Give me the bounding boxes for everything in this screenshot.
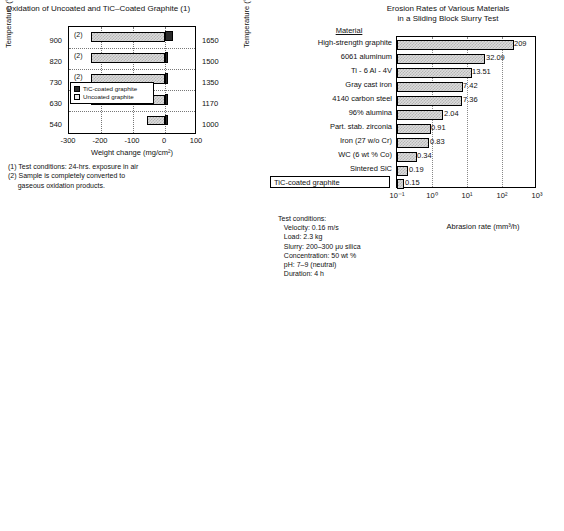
sliding-title-line1: Erosion Rates of Various Materials <box>338 4 558 14</box>
oxidation-legend: TiC-coated graphite Uncoated graphite <box>70 82 154 104</box>
sliding-value-10: 0.15 <box>405 177 420 188</box>
oxidation-ytick-c-3: 630 <box>36 99 62 108</box>
oxidation-ylabel-left: Temperature (°C) <box>4 0 13 48</box>
legend-swatch-light-icon <box>74 94 80 100</box>
sliding-bar-6 <box>397 124 431 134</box>
chart-oxidation: Oxidation of Uncoated and TiC–Coated Gra… <box>6 4 268 214</box>
sliding-xtick-3: 10² <box>491 191 513 200</box>
sliding-cond-2: Load: 2.3 kg <box>278 232 361 241</box>
sliding-label-9: Sintered SiC <box>268 163 392 174</box>
oxidation-bar-uncoated-1 <box>91 53 165 63</box>
sliding-label-8: WC (6 wt % Co) <box>268 149 392 160</box>
oxidation-footnote-3: gaseous oxidation products. <box>8 181 258 190</box>
oxidation-ytick-f-4: 1000 <box>202 120 232 129</box>
legend-label-tic: TiC-coated graphite <box>83 85 137 93</box>
sliding-cond-4: Concentration: 50 wt % <box>278 251 361 260</box>
legend-label-uncoated: Uncoated graphite <box>83 93 134 101</box>
legend-swatch-dark-icon <box>74 86 80 92</box>
sliding-bar-1 <box>397 54 485 64</box>
sliding-label-1: 6061 aluminum <box>268 51 392 62</box>
sliding-xlabel: Abrasion rate (mm³/h) <box>408 222 558 231</box>
oxidation-marker-0: (2) <box>74 31 83 38</box>
chart-sliding-block: Erosion Rates of Various Materials in a … <box>268 2 560 277</box>
oxidation-xlabel: Weight change (mg/cm²) <box>68 148 196 157</box>
sliding-bar-8 <box>397 152 417 162</box>
sliding-value-8: 0.34 <box>417 150 432 161</box>
oxidation-ytick-f-1: 1500 <box>202 57 232 66</box>
sliding-label-4: 4140 carbon steel <box>268 93 392 104</box>
oxidation-bar-tic-2 <box>165 73 168 84</box>
legend-item-tic: TiC-coated graphite <box>74 85 150 93</box>
oxidation-xtick-4: 100 <box>181 136 211 145</box>
oxidation-ytick-c-1: 820 <box>36 57 62 66</box>
sliding-bar-5 <box>397 110 443 120</box>
oxidation-ytick-f-2: 1350 <box>202 78 232 87</box>
sliding-value-2: 13.51 <box>472 66 491 77</box>
oxidation-title: Oxidation of Uncoated and TiC–Coated Gra… <box>6 4 268 13</box>
oxidation-ytick-c-2: 730 <box>36 78 62 87</box>
oxidation-xtick-3: 0 <box>149 136 179 145</box>
sliding-value-4: 7.36 <box>463 94 478 105</box>
sliding-value-5: 2.04 <box>444 108 459 119</box>
oxidation-plot-area <box>68 26 196 134</box>
sliding-value-9: 0.19 <box>409 164 424 175</box>
oxidation-ytick-c-4: 540 <box>36 120 62 129</box>
oxidation-bar-uncoated-4 <box>147 116 165 125</box>
sliding-cond-3: Slurry: 200–300 μυ silica <box>278 242 361 251</box>
oxidation-marker-1: (2) <box>74 52 83 59</box>
sliding-label-2: Ti - 6 Al - 4V <box>268 65 392 76</box>
sliding-cond-1: Velocity: 0.16 m/s <box>278 223 361 232</box>
sliding-label-6: Part. stab. zirconia <box>268 121 392 132</box>
sliding-value-0: 209 <box>514 38 527 49</box>
sliding-label-5: 96% alumina <box>268 107 392 118</box>
sliding-label-3: Gray cast iron <box>268 79 392 90</box>
sliding-cond-0: Test conditions: <box>278 214 361 223</box>
oxidation-marker-2: (2) <box>74 73 83 80</box>
oxidation-footnote-2: (2) Sample is completely converted to <box>8 171 258 180</box>
sliding-cond-6: Duration: 4 h <box>278 269 361 278</box>
oxidation-bar-uncoated-0 <box>91 32 165 42</box>
oxidation-ytick-c-0: 900 <box>36 36 62 45</box>
sliding-label-0: High-strength graphite <box>268 37 392 48</box>
oxidation-bar-tic-4 <box>165 115 168 125</box>
sliding-value-7: 0.83 <box>430 136 445 147</box>
sliding-label-7: Iron (27 w/o Cr) <box>268 135 392 146</box>
oxidation-ylabel-right: Temperature (°F) <box>242 0 251 48</box>
sliding-bar-9 <box>397 166 408 176</box>
oxidation-ytick-f-0: 1650 <box>202 36 232 45</box>
sliding-label-10-highlighted: TiC-coated graphite <box>270 176 390 188</box>
oxidation-bar-tic-1 <box>165 52 168 63</box>
sliding-xtick-4: 10³ <box>526 191 548 200</box>
sliding-material-header: Material <box>304 26 394 35</box>
legend-item-uncoated: Uncoated graphite <box>74 93 150 101</box>
sliding-test-conditions: Test conditions: Velocity: 0.16 m/s Load… <box>278 214 361 278</box>
oxidation-xtick-1: -200 <box>85 136 115 145</box>
sliding-value-6: 0.91 <box>431 122 446 133</box>
oxidation-xtick-2: -100 <box>117 136 147 145</box>
sliding-bar-4 <box>397 96 462 106</box>
sliding-cond-5: pH: 7–9 (neutral) <box>278 260 361 269</box>
sliding-bar-7 <box>397 138 429 148</box>
oxidation-ytick-f-3: 1170 <box>202 99 232 108</box>
oxidation-xtick-0: -300 <box>53 136 83 145</box>
sliding-bar-10 <box>397 179 404 189</box>
oxidation-bar-tic-3 <box>165 94 168 105</box>
oxidation-bar-tic-0 <box>165 31 173 41</box>
sliding-value-3: 7.42 <box>463 80 478 91</box>
sliding-value-1: 32.09 <box>486 52 505 63</box>
oxidation-footnote-1: (1) Test conditions: 24-hrs. exposure in… <box>8 162 258 171</box>
sliding-xtick-0: 10⁻¹ <box>386 191 408 200</box>
sliding-bar-2 <box>397 68 472 78</box>
sliding-bar-3 <box>397 82 463 92</box>
sliding-xtick-1: 10⁰ <box>421 191 443 200</box>
sliding-title-line2: in a Sliding Block Slurry Test <box>338 14 558 24</box>
sliding-xtick-2: 10¹ <box>456 191 478 200</box>
oxidation-footnotes: (1) Test conditions: 24-hrs. exposure in… <box>8 162 258 190</box>
sliding-bar-0 <box>397 40 514 50</box>
